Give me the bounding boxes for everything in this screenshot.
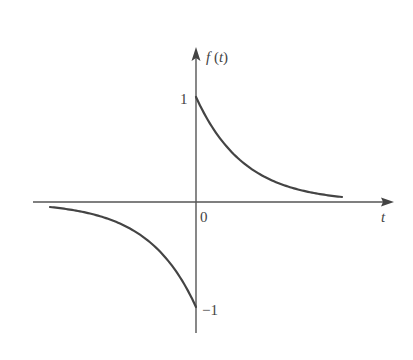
y-tick-label-1: 1: [180, 91, 188, 107]
positive-decay-curve: [196, 97, 342, 197]
negative-growth-curve: [50, 207, 196, 307]
y-tick-label-neg1: −1: [202, 302, 218, 318]
signal-plot: f (t) t 0 1 −1: [0, 0, 413, 360]
y-axis-label: f (t): [206, 49, 228, 66]
x-axis-label: t: [381, 209, 386, 225]
origin-label: 0: [200, 209, 208, 225]
